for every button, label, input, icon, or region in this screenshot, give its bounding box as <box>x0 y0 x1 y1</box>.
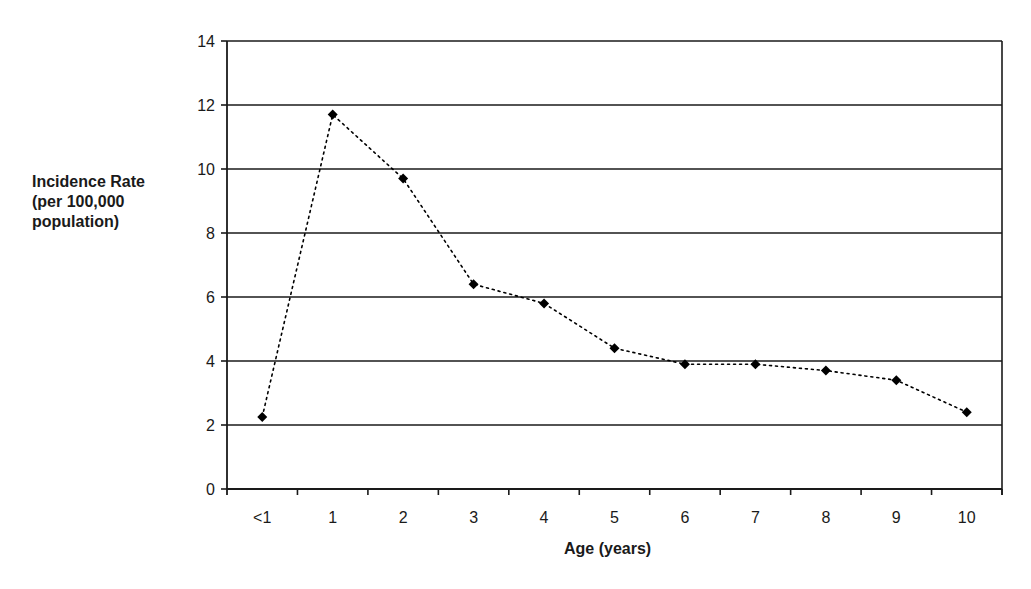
x-axis-label: Age (years) <box>564 540 651 558</box>
y-tick-label: 4 <box>206 353 215 370</box>
series-line <box>262 115 967 417</box>
data-point-diamond-marker <box>398 174 408 184</box>
data-point-diamond-marker <box>821 366 831 376</box>
line-chart: Incidence Rate (per 100,000 population) … <box>0 0 1031 589</box>
x-tick-label: 10 <box>958 509 976 526</box>
x-tick-label: 5 <box>610 509 619 526</box>
axes <box>227 41 1002 495</box>
x-tick-label: 7 <box>751 509 760 526</box>
data-point-diamond-marker <box>469 279 479 289</box>
y-tick-label: 2 <box>206 417 215 434</box>
y-tick-label: 14 <box>197 33 215 50</box>
x-tick-label: 3 <box>469 509 478 526</box>
data-point-diamond-marker <box>610 343 620 353</box>
data-series <box>257 110 972 422</box>
x-axis-ticks: <112345678910 <box>253 489 1002 526</box>
data-point-diamond-marker <box>962 407 972 417</box>
y-axis-ticks: 02468101214 <box>197 33 227 498</box>
x-tick-label: <1 <box>253 509 271 526</box>
data-point-diamond-marker <box>257 412 267 422</box>
data-point-diamond-marker <box>891 375 901 385</box>
gridlines <box>227 41 1002 425</box>
x-tick-label: 2 <box>399 509 408 526</box>
plot-area: 02468101214 <112345678910 <box>0 0 1031 589</box>
y-tick-label: 0 <box>206 481 215 498</box>
y-tick-label: 10 <box>197 161 215 178</box>
y-tick-label: 8 <box>206 225 215 242</box>
y-tick-label: 6 <box>206 289 215 306</box>
x-tick-label: 6 <box>681 509 690 526</box>
x-tick-label: 9 <box>892 509 901 526</box>
y-tick-label: 12 <box>197 97 215 114</box>
x-tick-label: 1 <box>328 509 337 526</box>
data-point-diamond-marker <box>539 298 549 308</box>
x-tick-label: 4 <box>540 509 549 526</box>
x-tick-label: 8 <box>821 509 830 526</box>
data-point-diamond-marker <box>328 110 338 120</box>
